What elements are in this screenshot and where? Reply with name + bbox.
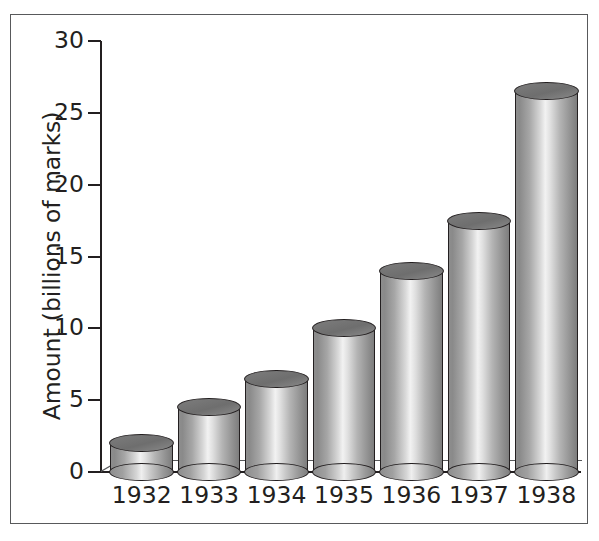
bar-1938 (515, 82, 578, 472)
bar-cylinder-body (448, 221, 511, 472)
y-tick-mark (88, 256, 101, 258)
y-tick-mark (88, 40, 101, 42)
bar-cylinder-base (447, 463, 512, 481)
y-tick-label: 30 (40, 26, 84, 54)
bar-cylinder-base (312, 463, 377, 481)
bar-1933 (178, 398, 241, 472)
y-tick-label: 5 (40, 385, 84, 413)
y-tick-mark (88, 184, 101, 186)
y-tick-label: 25 (40, 98, 84, 126)
x-tick-label-1938: 1938 (506, 481, 586, 509)
bar-1935 (313, 319, 376, 472)
bar-cylinder-base (514, 463, 579, 481)
bar-cylinder-cap (379, 262, 444, 280)
y-tick-label: 0 (40, 457, 84, 485)
y-tick-label: 15 (40, 242, 84, 270)
y-tick-label: 10 (40, 313, 84, 341)
bar-cylinder-base (379, 463, 444, 481)
bar-cylinder-body (245, 379, 308, 472)
bar-cylinder-base (109, 463, 174, 481)
bar-1932 (110, 434, 173, 472)
y-tick-label: 20 (40, 170, 84, 198)
chart-figure: Amount (billions of marks) 051015202530 … (0, 0, 599, 541)
bar-1937 (448, 212, 511, 472)
bar-1934 (245, 370, 308, 472)
y-tick-mark (88, 327, 101, 329)
bar-cylinder-cap (447, 212, 512, 230)
bar-cylinder-body (515, 91, 578, 472)
y-tick-mark (88, 112, 101, 114)
plot-area: 051015202530 193219331934193519361937193… (0, 0, 599, 541)
bar-1936 (380, 262, 443, 472)
bar-cylinder-cap (244, 370, 309, 388)
bar-cylinder-body (313, 328, 376, 472)
bar-cylinder-body (380, 271, 443, 472)
y-tick-mark (88, 399, 101, 401)
y-tick-mark (88, 471, 101, 473)
bar-cylinder-base (177, 463, 242, 481)
bar-cylinder-base (244, 463, 309, 481)
